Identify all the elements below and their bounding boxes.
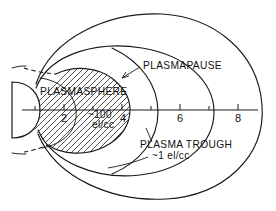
density-inner-unit-label: el/cc <box>92 119 114 130</box>
diagram-canvas: 2 4 6 8 PLASMAPAUSE PLASMASPHERE ~100 el… <box>0 0 276 211</box>
lower-left-arc <box>12 153 26 154</box>
plasmapause-arrowhead <box>122 72 129 78</box>
plasmasphere-diagram: 2 4 6 8 PLASMAPAUSE PLASMASPHERE ~100 el… <box>0 0 276 211</box>
axis-tick-label-4: 4 <box>120 112 126 124</box>
upper-left-arc <box>12 66 26 68</box>
axis-tick-label-2: 2 <box>61 112 67 124</box>
axis-tick-label-8: 8 <box>235 112 241 124</box>
plasma-trough-label: PLASMA TROUGH <box>140 139 232 150</box>
plasma-trough-leader-line <box>108 157 148 168</box>
axis-tick-label-6: 6 <box>177 112 183 124</box>
plasmasphere-label: PLASMASPHERE <box>40 86 127 97</box>
density-outer-label: ~1 el/cc <box>152 150 190 161</box>
plasmapause-label: PLASMAPAUSE <box>143 60 222 71</box>
plasmapause-leader-line <box>122 67 140 78</box>
